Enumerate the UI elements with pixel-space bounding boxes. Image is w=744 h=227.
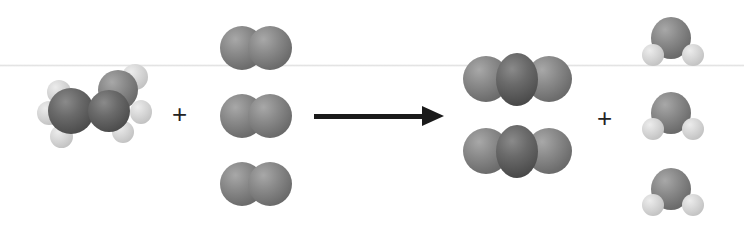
carbon-atom	[88, 90, 130, 132]
reaction-diagram: + +	[0, 0, 744, 227]
carbon-atom	[496, 125, 538, 178]
background-scan-line	[0, 64, 744, 67]
hydrogen-atom	[682, 194, 704, 216]
carbon-atom	[496, 53, 538, 106]
arrow-head-icon	[422, 106, 444, 126]
hydrogen-atom	[642, 44, 664, 66]
hydrogen-atom	[682, 44, 704, 66]
arrow-shaft	[314, 114, 430, 119]
oxygen-atom	[248, 162, 292, 206]
plus-sign: +	[172, 101, 187, 127]
hydrogen-atom	[642, 118, 664, 140]
oxygen-atom	[248, 26, 292, 70]
plus-sign: +	[597, 105, 612, 131]
oxygen-atom	[248, 94, 292, 138]
hydrogen-atom	[682, 118, 704, 140]
hydrogen-atom	[130, 100, 152, 124]
hydrogen-atom	[642, 194, 664, 216]
